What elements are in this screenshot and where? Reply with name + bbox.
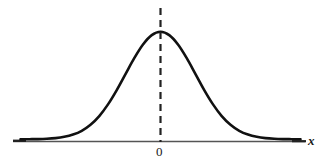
bell-curve-plot bbox=[0, 0, 322, 167]
normal-distribution-figure: 0 x bbox=[0, 0, 322, 167]
x-axis-label: x bbox=[308, 134, 315, 147]
origin-tick-label: 0 bbox=[156, 145, 163, 158]
